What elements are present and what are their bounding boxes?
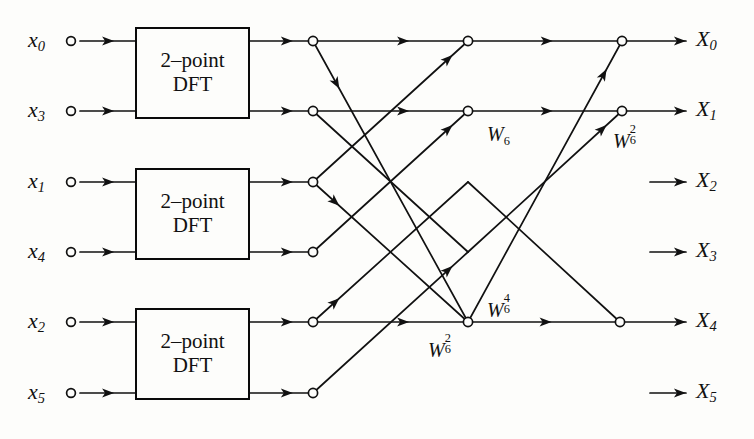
sum-node-n-s2-r0 <box>463 36 472 45</box>
input-label-base: x <box>28 379 38 404</box>
sum-node-n-s1-r1 <box>308 106 317 115</box>
sum-node-n-s1-r2 <box>308 177 317 186</box>
arrow-d-s2-r4up <box>597 69 607 82</box>
output-label-index: 1 <box>709 107 716 123</box>
input-label-base: x <box>28 27 38 52</box>
twiddle-exponent-group: 46 <box>504 297 516 317</box>
twiddle-label-w6-2: W26 <box>613 128 642 151</box>
twiddle-label-w6-1: W6 <box>487 124 510 148</box>
sum-node-n-s1-r5 <box>308 388 317 397</box>
input-label-base: x <box>28 238 38 263</box>
dft-box-bottom: 2–point DFT <box>135 308 250 400</box>
output-label-base: X <box>696 167 709 192</box>
input-node-x0 <box>67 37 76 46</box>
input-label-base: x <box>28 168 38 193</box>
output-label-base: X <box>696 237 709 262</box>
twiddle-subscript: 6 <box>630 134 636 146</box>
input-label-index: 0 <box>38 38 45 54</box>
output-label-X3: X3 <box>696 239 717 264</box>
twiddle-subscript: 6 <box>504 303 510 315</box>
sum-node-n-s1-r0 <box>308 36 317 45</box>
input-label-index: 3 <box>38 108 45 124</box>
twiddle-base: W <box>487 123 504 145</box>
sum-node-n-s3-r1 <box>617 106 626 115</box>
output-label-X1: X1 <box>696 98 717 123</box>
sum-node-n-s2-r1 <box>463 106 472 115</box>
dft-box-middle-line1: 2–point <box>160 190 224 214</box>
input-label-x3: x3 <box>28 99 45 124</box>
twiddle-base: W <box>428 339 445 361</box>
input-node-x5 <box>67 389 76 398</box>
sum-node-n-s1-r3 <box>308 247 317 256</box>
twiddle-label-w6-2b: W26 <box>428 337 457 360</box>
input-label-base: x <box>28 308 38 333</box>
twiddle-base: W <box>613 130 630 152</box>
output-label-index: 2 <box>709 178 716 194</box>
output-label-base: X <box>696 307 709 332</box>
dft-box-bottom-line1: 2–point <box>160 330 224 354</box>
twiddle-subscript: 6 <box>445 343 451 355</box>
input-label-x1: x1 <box>28 170 45 195</box>
input-label-x0: x0 <box>28 29 45 54</box>
twiddle-subscript: 6 <box>504 134 510 148</box>
twiddle-label-w6-4: W46 <box>487 297 516 320</box>
output-label-X0: X0 <box>696 28 717 53</box>
sum-node-n-s3-r0 <box>617 36 626 45</box>
dft-box-middle-line2: DFT <box>173 214 213 238</box>
input-node-x1 <box>67 178 76 187</box>
twiddle-exponent-group: 26 <box>630 128 642 148</box>
input-node-x3 <box>67 107 76 116</box>
dft-box-middle: 2–point DFT <box>135 168 250 260</box>
dft-box-top-line2: DFT <box>173 73 213 97</box>
output-label-index: 4 <box>709 318 716 334</box>
input-label-base: x <box>28 97 38 122</box>
fft-butterfly-diagram: 2–point DFT 2–point DFT 2–point DFT x0x3… <box>0 0 754 439</box>
input-label-index: 5 <box>38 390 45 406</box>
input-label-index: 4 <box>38 249 45 265</box>
output-label-base: X <box>696 378 709 403</box>
input-label-index: 1 <box>38 179 45 195</box>
output-label-base: X <box>696 26 709 51</box>
sum-node-n-s1-r4 <box>308 317 317 326</box>
output-label-X2: X2 <box>696 169 717 194</box>
output-label-X4: X4 <box>696 309 717 334</box>
input-label-x2: x2 <box>28 310 45 335</box>
input-label-x4: x4 <box>28 240 45 265</box>
output-label-index: 3 <box>709 248 716 264</box>
output-label-index: 5 <box>709 389 716 405</box>
twiddle-exponent-group: 26 <box>445 337 457 357</box>
input-node-x2 <box>67 318 76 327</box>
arrow-d-r0-down <box>330 76 340 89</box>
dft-box-top-line1: 2–point <box>160 49 224 73</box>
output-label-X5: X5 <box>696 380 717 405</box>
dft-box-top: 2–point DFT <box>135 27 250 119</box>
input-label-index: 2 <box>38 319 45 335</box>
output-label-base: X <box>696 96 709 121</box>
input-label-x5: x5 <box>28 381 45 406</box>
sum-node-n-s3-r4 <box>615 317 624 326</box>
twiddle-base: W <box>487 299 504 321</box>
output-label-index: 0 <box>709 37 716 53</box>
signal-flow-wires <box>0 0 754 439</box>
dft-box-bottom-line2: DFT <box>173 354 213 378</box>
sum-node-n-s2-r4 <box>463 317 472 326</box>
input-node-x4 <box>67 248 76 257</box>
